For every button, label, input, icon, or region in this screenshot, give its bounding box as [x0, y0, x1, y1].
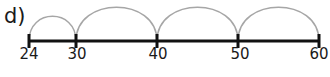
tick-label-60: 60 — [309, 47, 328, 62]
tick-label-40: 40 — [148, 47, 167, 62]
jump-arcs — [29, 7, 319, 41]
tick-label-24: 24 — [19, 47, 38, 62]
jump-arc-30-40 — [76, 7, 157, 41]
jump-arc-50-60 — [238, 7, 319, 41]
jump-arc-40-50 — [157, 7, 238, 41]
jump-arc-24-30 — [29, 16, 76, 41]
number-line — [0, 0, 330, 77]
tick-label-50: 50 — [230, 47, 249, 62]
tick-label-30: 30 — [67, 47, 86, 62]
